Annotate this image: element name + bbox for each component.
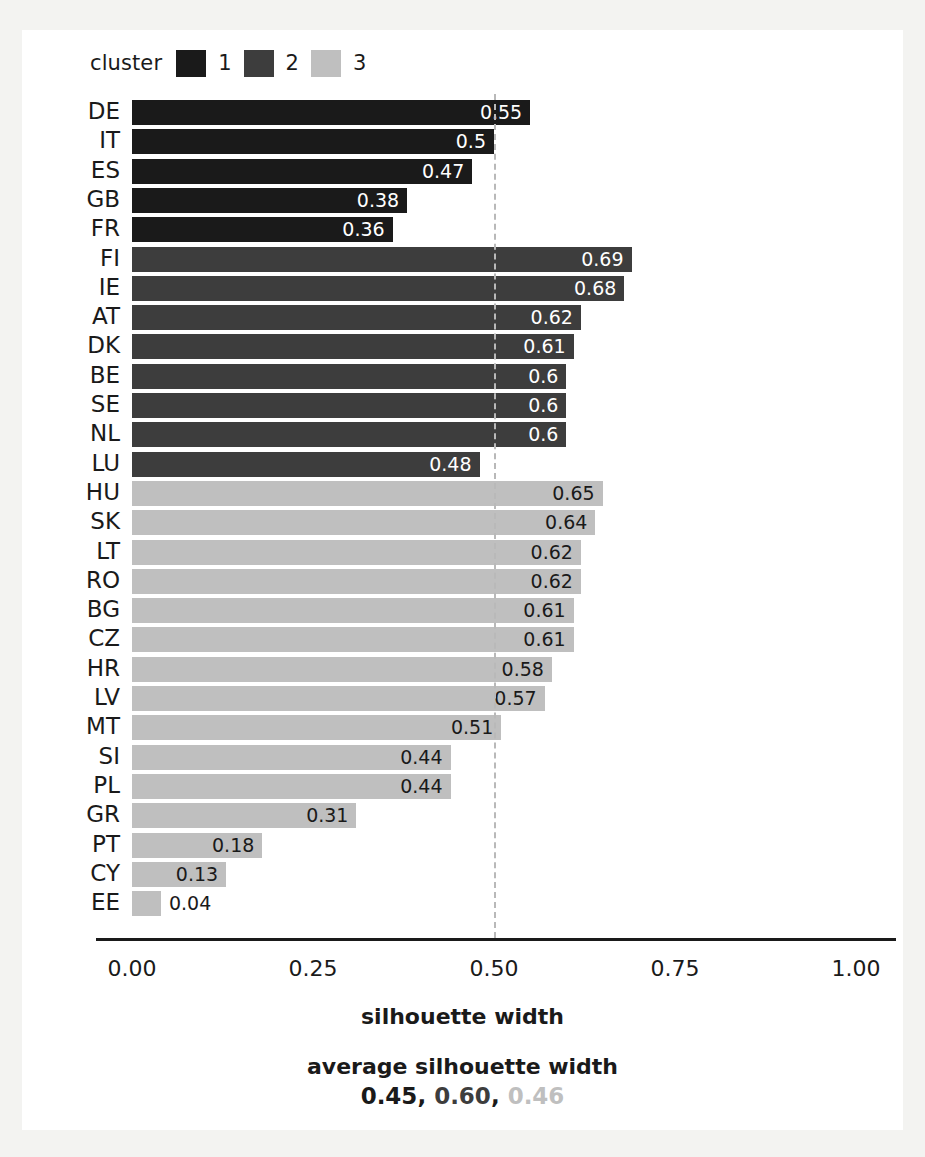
- bar-row: BG0.61: [0, 596, 925, 625]
- bar-row: IT0.5: [0, 127, 925, 156]
- bar-value-label: 0.6: [528, 364, 558, 389]
- bar-value-label: 0.61: [523, 334, 565, 359]
- silhouette-bar: [132, 627, 574, 652]
- bar-row: EE0.04: [0, 889, 925, 918]
- bar-value-label: 0.6: [528, 393, 558, 418]
- silhouette-bar: [132, 334, 574, 359]
- country-label: MT: [36, 713, 120, 739]
- country-label: PL: [36, 772, 120, 798]
- silhouette-bar: [132, 100, 530, 125]
- bar-row: SK0.64: [0, 508, 925, 537]
- country-label: DE: [36, 98, 120, 124]
- bar-value-label: 0.44: [400, 745, 442, 770]
- average-value-cluster-3: 0.46: [508, 1083, 565, 1109]
- x-tick-label: 0.75: [651, 956, 700, 981]
- bar-row: RO0.62: [0, 567, 925, 596]
- value-separator: ,: [417, 1083, 434, 1109]
- silhouette-bar: [132, 422, 566, 447]
- bar-row: GR0.31: [0, 801, 925, 830]
- bar-value-label: 0.62: [531, 540, 573, 565]
- silhouette-bar: [132, 686, 545, 711]
- x-tick-label: 0.00: [108, 956, 157, 981]
- bar-row: CY0.13: [0, 860, 925, 889]
- country-label: CY: [36, 860, 120, 886]
- bar-row: FR0.36: [0, 215, 925, 244]
- bar-value-label: 0.48: [429, 452, 471, 477]
- bar-value-label: 0.44: [400, 774, 442, 799]
- x-tick-label: 1.00: [832, 956, 881, 981]
- bar-value-label: 0.55: [480, 100, 522, 125]
- country-label: BG: [36, 596, 120, 622]
- country-label: IE: [36, 274, 120, 300]
- country-label: HR: [36, 655, 120, 681]
- bar-row: LU0.48: [0, 450, 925, 479]
- bar-row: CZ0.61: [0, 625, 925, 654]
- country-label: DK: [36, 332, 120, 358]
- silhouette-bar: [132, 452, 480, 477]
- country-label: LV: [36, 684, 120, 710]
- country-label: NL: [36, 420, 120, 446]
- silhouette-bar: [132, 129, 494, 154]
- bar-value-label: 0.69: [581, 247, 623, 272]
- country-label: ES: [36, 157, 120, 183]
- country-label: EE: [36, 889, 120, 915]
- country-label: FI: [36, 245, 120, 271]
- silhouette-bar: [132, 715, 501, 740]
- silhouette-bar: [132, 305, 581, 330]
- bar-row: SE0.6: [0, 391, 925, 420]
- country-label: SK: [36, 508, 120, 534]
- average-value-cluster-1: 0.45: [361, 1083, 418, 1109]
- bar-row: BE0.6: [0, 362, 925, 391]
- bar-value-label: 0.61: [523, 598, 565, 623]
- value-separator: ,: [491, 1083, 508, 1109]
- bar-row: HU0.65: [0, 479, 925, 508]
- bar-row: NL0.6: [0, 420, 925, 449]
- bar-row: ES0.47: [0, 157, 925, 186]
- silhouette-bar: [132, 891, 161, 916]
- bar-row: AT0.62: [0, 303, 925, 332]
- x-tick-label: 0.25: [289, 956, 338, 981]
- bar-row: PL0.44: [0, 772, 925, 801]
- bar-row: PT0.18: [0, 831, 925, 860]
- silhouette-bar: [132, 364, 566, 389]
- country-label: HU: [36, 479, 120, 505]
- x-axis-line: [96, 938, 896, 941]
- bar-value-label: 0.58: [502, 657, 544, 682]
- bar-row: IE0.68: [0, 274, 925, 303]
- country-label: RO: [36, 567, 120, 593]
- silhouette-bar: [132, 481, 603, 506]
- country-label: SI: [36, 743, 120, 769]
- bar-row: MT0.51: [0, 713, 925, 742]
- silhouette-bar: [132, 393, 566, 418]
- average-silhouette-values: 0.45, 0.60, 0.46: [0, 1083, 925, 1109]
- bar-value-label: 0.51: [451, 715, 493, 740]
- bar-value-label: 0.04: [169, 891, 211, 916]
- bar-row: SI0.44: [0, 743, 925, 772]
- country-label: IT: [36, 127, 120, 153]
- bar-value-label: 0.36: [342, 217, 384, 242]
- silhouette-bar: [132, 510, 595, 535]
- average-reference-line: [494, 94, 496, 938]
- country-label: GR: [36, 801, 120, 827]
- bar-value-label: 0.64: [545, 510, 587, 535]
- country-label: LT: [36, 538, 120, 564]
- average-value-cluster-2: 0.60: [434, 1083, 491, 1109]
- bar-value-label: 0.68: [574, 276, 616, 301]
- silhouette-bar-chart: DE0.55IT0.5ES0.47GB0.38FR0.36FI0.69IE0.6…: [0, 0, 925, 1157]
- silhouette-bar: [132, 276, 624, 301]
- bar-value-label: 0.5: [456, 129, 486, 154]
- bar-row: HR0.58: [0, 655, 925, 684]
- bar-row: GB0.38: [0, 186, 925, 215]
- country-label: GB: [36, 186, 120, 212]
- bar-value-label: 0.57: [494, 686, 536, 711]
- bar-value-label: 0.38: [357, 188, 399, 213]
- x-axis-label: silhouette width: [0, 1004, 925, 1029]
- bar-value-label: 0.13: [176, 862, 218, 887]
- bar-row: LV0.57: [0, 684, 925, 713]
- country-label: LU: [36, 450, 120, 476]
- average-silhouette-title: average silhouette width: [0, 1054, 925, 1079]
- bar-row: DK0.61: [0, 332, 925, 361]
- bar-row: FI0.69: [0, 245, 925, 274]
- silhouette-bar: [132, 247, 632, 272]
- country-label: FR: [36, 215, 120, 241]
